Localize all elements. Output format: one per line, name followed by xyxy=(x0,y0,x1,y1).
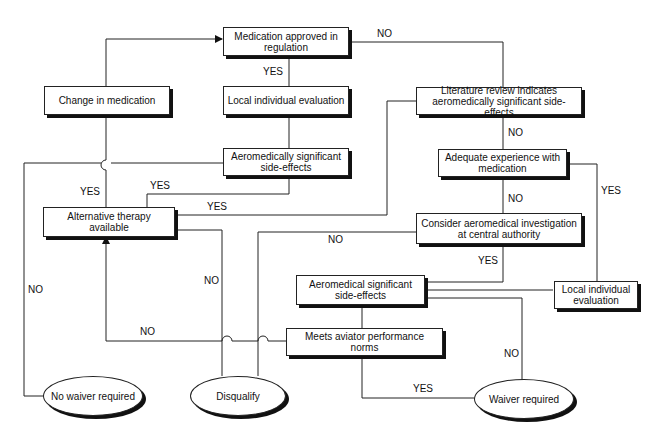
node-aero-side-effects-1: Aeromedically significant side-effects xyxy=(223,148,349,176)
node-literature-review: Literature review indicates aeromedicall… xyxy=(416,87,582,115)
node-waiver-required: Waiver required xyxy=(474,379,574,419)
label-yes-meets: YES xyxy=(413,384,433,394)
node-adequate-experience: Adequate experience with medication xyxy=(438,149,567,177)
node-disqualify: Disqualify xyxy=(190,376,286,416)
node-alternative-therapy: Alternative therapy available xyxy=(43,207,175,237)
label-no-alt-left: NO xyxy=(28,285,43,295)
label-no-waiver-side: NO xyxy=(504,349,519,359)
node-meets-norms: Meets aviator performance norms xyxy=(286,328,443,356)
label-yes-consider: YES xyxy=(478,256,498,266)
label-yes-literature: YES xyxy=(207,202,227,212)
label-no-literature: NO xyxy=(508,128,523,138)
label-yes-side1: YES xyxy=(150,181,170,191)
node-local-evaluation-top: Local individual evaluation xyxy=(223,86,349,115)
label-no-adequate: NO xyxy=(508,194,523,204)
label-yes-adequate: YES xyxy=(601,186,621,196)
label-yes-approved: YES xyxy=(263,67,283,77)
label-no-disqualify: NO xyxy=(204,276,219,286)
label-yes-change: YES xyxy=(80,187,100,197)
node-aero-side-effects-2: Aeromedical significant side-effects xyxy=(296,275,425,305)
node-medication-approved: Medication approved in regulation xyxy=(223,27,349,56)
label-no-top: NO xyxy=(377,29,392,39)
node-change-in-medication: Change in medication xyxy=(44,86,170,115)
node-local-evaluation-right: Local individual evaluation xyxy=(554,281,638,309)
node-consider-investigation: Consider aeromedical investigation at ce… xyxy=(416,213,582,244)
label-no-meets: NO xyxy=(140,327,155,337)
node-no-waiver: No waiver required xyxy=(43,376,143,416)
label-no-consider: NO xyxy=(328,235,343,245)
